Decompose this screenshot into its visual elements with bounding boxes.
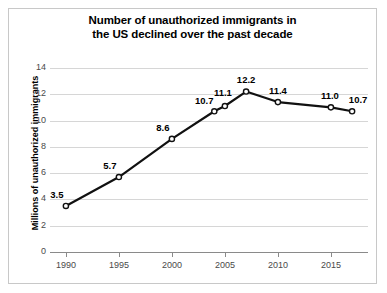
x-tick [331,253,332,257]
y-tick-label: 0 [20,246,46,256]
data-point-marker [222,103,227,108]
x-tick-label: 2015 [311,260,351,270]
x-tick [119,253,120,257]
data-point-marker [244,89,249,94]
data-point-marker [328,105,333,110]
x-axis-line [50,252,368,253]
data-point-marker [275,99,280,104]
x-tick-label: 2000 [152,260,192,270]
y-tick-label: 2 [20,220,46,230]
y-axis-ticks: 02468101214 [16,60,46,252]
data-point-label: 8.6 [146,122,180,133]
data-point-marker [169,136,174,141]
chart-title: Number of unauthorized immigrants in the… [8,13,377,41]
y-tick-label: 10 [20,115,46,125]
data-point-marker [116,174,121,179]
data-point-label: 11.1 [206,87,240,98]
x-tick-label: 2005 [205,260,245,270]
data-point-label: 12.2 [229,74,263,85]
chart-figure: Number of unauthorized immigrants in the… [0,0,387,293]
chart-title-line-2: the US declined over the past decade [8,27,377,41]
y-tick-label: 6 [20,167,46,177]
data-point-label: 5.7 [93,160,127,171]
data-point-label: 11.4 [261,85,295,96]
y-tick-label: 12 [20,88,46,98]
data-point-marker [350,109,355,114]
y-tick-label: 14 [20,62,46,72]
data-point-marker [63,203,68,208]
x-tick-label: 1995 [99,260,139,270]
chart-title-line-1: Number of unauthorized immigrants in [8,13,377,27]
data-point-label: 10.7 [341,94,375,105]
data-point-marker [212,109,217,114]
x-tick [172,253,173,257]
x-tick-label: 2010 [258,260,298,270]
x-tick-label: 1990 [46,260,86,270]
x-tick [66,253,67,257]
data-point-label: 3.5 [40,189,74,200]
series-line [66,92,352,206]
x-tick [225,253,226,257]
x-tick [278,253,279,257]
y-tick-label: 8 [20,141,46,151]
